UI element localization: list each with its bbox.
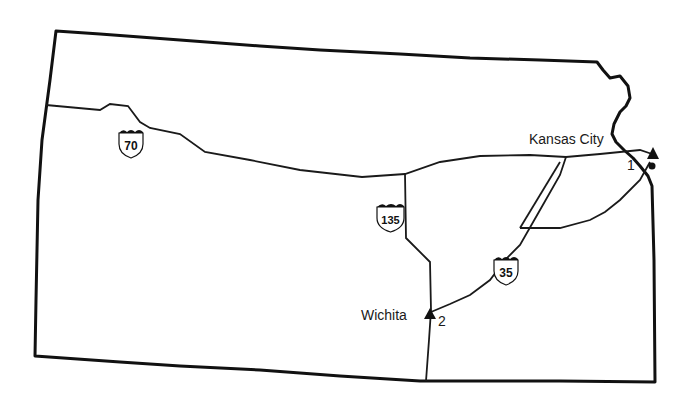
interstate-135-shield: 135 xyxy=(377,204,404,232)
svg-text:135: 135 xyxy=(381,214,399,226)
highway-35-road xyxy=(431,157,566,312)
interstate-35-shield: 35 xyxy=(494,257,518,285)
state-border xyxy=(35,31,655,382)
wichita-marker xyxy=(424,308,436,319)
kansas-city-label: Kansas City xyxy=(529,131,604,147)
highway-135-road xyxy=(405,174,431,381)
connector-road-2 xyxy=(520,162,560,228)
svg-text:70: 70 xyxy=(124,139,138,153)
svg-text:35: 35 xyxy=(499,266,513,280)
interstate-70-shield: 70 xyxy=(119,130,143,158)
kansas-map: 70 135 35 Kansas City 1 Wichita 2 xyxy=(0,0,692,412)
kansas-city-number: 1 xyxy=(627,157,635,173)
kansas-city-marker xyxy=(647,147,659,170)
wichita-number: 2 xyxy=(438,313,446,329)
wichita-label: Wichita xyxy=(361,307,407,323)
